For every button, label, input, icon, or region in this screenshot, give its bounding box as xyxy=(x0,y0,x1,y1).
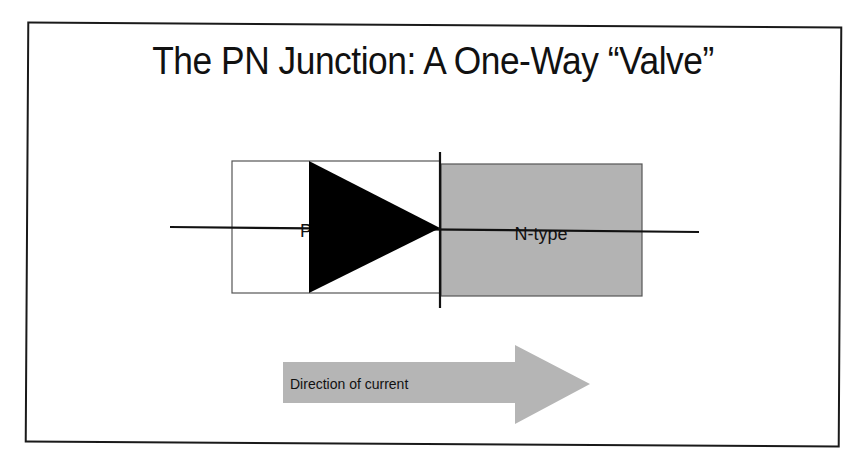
pn-junction-diagram: P-type N-type Direction of current xyxy=(0,0,866,464)
current-direction-label: Direction of current xyxy=(290,376,408,392)
current-direction-arrow: Direction of current xyxy=(283,345,590,424)
n-type-label: N-type xyxy=(514,224,567,244)
